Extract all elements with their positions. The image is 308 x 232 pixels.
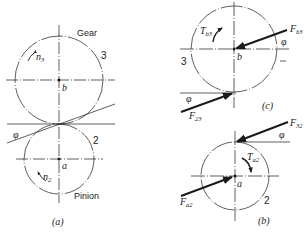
pressure-angle-label: φ (13, 130, 19, 140)
torque-b3-label: Tb3 (200, 26, 212, 36)
gear-speed-subscript: 3 (41, 56, 44, 63)
angle-top-label-c: φ (281, 37, 287, 47)
angle-label-b: φ (279, 130, 285, 140)
caption-c: (c) (262, 101, 273, 111)
pinion-label: Pinion (74, 192, 99, 201)
force-23-label: F23 (189, 111, 202, 121)
gear-label: Gear (77, 29, 97, 38)
gear-fb-number-label: 3 (181, 57, 187, 67)
force-a2-arrow (181, 177, 232, 196)
torque-a2-label: Ta2 (247, 152, 259, 162)
force-32-subscript: 32 (296, 122, 303, 129)
gear-rotation-arrow-icon (28, 53, 34, 61)
torque-b3-symbol: T (200, 25, 206, 36)
panel-a (6, 25, 115, 203)
panel-b (181, 122, 290, 222)
gear-center-dot (58, 79, 61, 82)
gear-force-diagram (0, 0, 308, 232)
pinion-number-label: 2 (93, 136, 99, 146)
force-b3-label: Fb3 (290, 24, 303, 34)
torque-b3-subscript: b3 (206, 30, 213, 37)
gear-number-label: 3 (101, 51, 107, 61)
angle-bottom-label-c: φ (186, 94, 192, 104)
caption-b: (b) (258, 216, 270, 226)
pinion-speed-subscript: 2 (48, 176, 51, 183)
gear-speed-label: n3 (36, 52, 44, 62)
gear-fb-center-label: b (237, 52, 242, 62)
pinion-center-label: a (62, 161, 67, 171)
force-23-subscript: 23 (195, 115, 202, 122)
force-a2-label: Fa2 (180, 197, 193, 207)
gear-fb-center-dot (233, 48, 236, 51)
force-a2-subscript: a2 (186, 201, 193, 208)
pinion-center-dot (58, 158, 61, 161)
force-b3-arrow (236, 30, 287, 49)
force-32-label: F32 (290, 118, 303, 128)
force-b3-subscript: b3 (296, 28, 303, 35)
pinion-speed-label: n2 (43, 172, 51, 182)
torque-a2-subscript: a2 (253, 156, 260, 163)
torque-a2-symbol: T (247, 151, 253, 162)
caption-a: (a) (52, 217, 64, 227)
torque-b3-arrow-icon (213, 28, 222, 42)
pinion-fb-center-label: a (237, 179, 242, 189)
gear-center-label: b (62, 83, 67, 93)
panel-c (180, 2, 290, 112)
pinion-fb-number-label: 2 (264, 196, 270, 206)
